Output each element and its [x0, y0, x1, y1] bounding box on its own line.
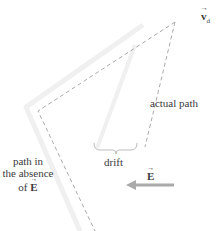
field-label: E: [147, 170, 154, 182]
absence-label-line2: the absence: [2, 167, 54, 179]
actual-path-label: actual path: [150, 97, 198, 109]
drift-velocity-label: vd: [201, 10, 210, 27]
drift-brace: [94, 143, 137, 154]
absence-label-line3: of E: [2, 181, 54, 193]
velocity-subscript: d: [207, 17, 211, 25]
diagram-graphics: [0, 0, 221, 231]
drift-label: drift: [104, 156, 123, 168]
velocity-symbol: v: [201, 10, 207, 22]
absence-field-symbol: E: [30, 181, 37, 193]
absence-of-text: of: [18, 181, 30, 193]
absence-label-line1: path in: [2, 155, 54, 167]
absence-path-label: path in the absence of E: [2, 155, 54, 193]
absence-path-band: [26, 25, 143, 231]
field-symbol: E: [147, 170, 154, 182]
drift-velocity-diagram: vd actual path drift E path in the absen…: [0, 0, 221, 231]
